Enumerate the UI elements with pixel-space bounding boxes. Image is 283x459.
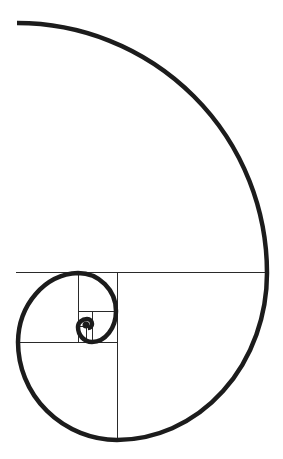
spiral-center-dot xyxy=(83,322,90,329)
golden-spiral-diagram xyxy=(0,0,283,459)
background xyxy=(0,0,283,459)
